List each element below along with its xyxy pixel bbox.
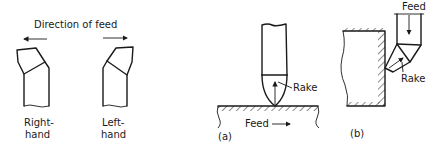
diagram-svg: Direction of feed Right- hand Left- hand — [0, 0, 438, 152]
rake-label-b: Rake — [401, 73, 425, 84]
panel-b: Feed Rake (b) — [341, 1, 426, 139]
left-hand-tool — [103, 47, 133, 107]
caption-a: (a) — [218, 131, 232, 142]
right-hand-label-1: Right- — [24, 117, 54, 128]
feed-label-b: Feed — [402, 1, 426, 12]
panel-a: Rake Feed (a) — [217, 24, 319, 142]
left-hand-label-2: hand — [101, 129, 126, 140]
tool-nose — [262, 75, 287, 106]
right-hand-label-2: hand — [25, 129, 50, 140]
right-hand-tool — [17, 48, 49, 107]
feed-label-a: Feed — [245, 118, 269, 129]
left-hand-label-1: Left- — [102, 117, 125, 128]
tool-b — [385, 14, 421, 72]
rake-label-a: Rake — [293, 82, 317, 93]
rake-arrow-b-icon — [389, 58, 403, 68]
direction-of-feed-title: Direction of feed — [34, 19, 117, 30]
cutting-tool-diagram: Direction of feed Right- hand Left- hand — [0, 0, 438, 152]
caption-b: (b) — [350, 128, 364, 139]
tool-shank — [262, 24, 287, 75]
left-panel: Direction of feed Right- hand Left- hand — [17, 19, 133, 140]
